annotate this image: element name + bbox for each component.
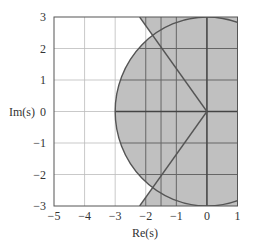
x-tick-label: −1 — [170, 209, 183, 223]
x-tick-label: −3 — [109, 209, 122, 223]
x-tick-label: 0 — [204, 209, 210, 223]
x-tick-label: −4 — [78, 209, 91, 223]
plot-area — [54, 15, 253, 208]
y-tick-label: 2 — [40, 42, 46, 56]
x-tick-label: 1 — [235, 209, 241, 223]
x-tick-label: −5 — [48, 209, 61, 223]
y-tick-label: −3 — [33, 199, 46, 213]
y-tick-label: 0 — [40, 105, 46, 119]
y-tick-label: 3 — [40, 10, 46, 24]
x-tick-label: −2 — [139, 209, 152, 223]
x-axis-label: Re(s) — [132, 226, 158, 240]
y-tick-label: 1 — [40, 73, 46, 87]
s-plane-chart: −5−4−3−2−1013210−1−2−3 Re(s) Im(s) — [0, 0, 253, 245]
y-tick-label: −2 — [33, 168, 46, 182]
y-tick-label: −1 — [33, 136, 46, 150]
y-axis-label: Im(s) — [9, 105, 35, 119]
